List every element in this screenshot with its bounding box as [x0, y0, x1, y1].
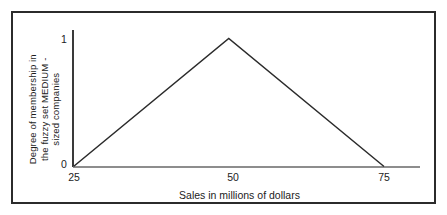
x-axis-label-text: Sales in millions of dollars [179, 189, 300, 201]
y-axis-line [72, 30, 74, 167]
x-axis-line [73, 166, 420, 168]
x-axis-label: Sales in millions of dollars [13, 189, 438, 201]
x-tick-label-50: 50 [227, 171, 239, 183]
y-tick-label-0: 0 [61, 158, 67, 170]
y-axis-label-line-3: sized companies [50, 54, 62, 164]
y-axis-label-line-1: Degree of membership in [27, 54, 39, 164]
figure-frame: Degree of membership in the fuzzy set ME… [11, 11, 436, 204]
y-axis-label-line-2: the fuzzy set MEDIUM - [38, 54, 50, 164]
x-tick-label-25: 25 [68, 171, 80, 183]
x-tick-label-75: 75 [378, 171, 390, 183]
y-tick-label-1: 1 [61, 33, 67, 45]
figure-screenshot: Degree of membership in the fuzzy set ME… [0, 0, 447, 215]
